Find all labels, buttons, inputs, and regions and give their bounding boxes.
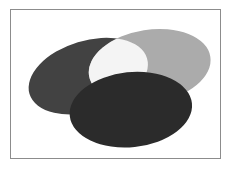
figure-frame xyxy=(10,9,221,159)
figure-page xyxy=(0,0,232,170)
ellipse-diagram-canvas xyxy=(11,10,220,158)
